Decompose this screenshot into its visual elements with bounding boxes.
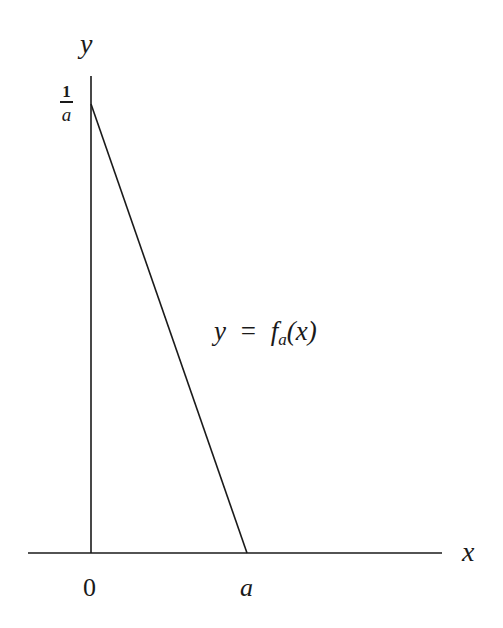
y-axis-label: y [80, 30, 92, 58]
curve-label-subscript: a [278, 330, 287, 349]
y-tick-label-one-over-a: 1 a [60, 83, 73, 124]
fraction-bar [60, 101, 73, 103]
curve-label-equals: = [241, 316, 256, 346]
curve-label-arg: (x) [287, 316, 317, 346]
curve-label: y = fa(x) [214, 318, 317, 348]
x-tick-label-a: a [240, 575, 253, 601]
curve-label-lhs: y [214, 316, 226, 346]
x-axis-label: x [462, 538, 474, 566]
y-tick-numerator: 1 [62, 83, 71, 100]
diagram-canvas [0, 0, 503, 628]
origin-label: 0 [83, 575, 96, 601]
y-tick-denominator: a [62, 105, 72, 124]
